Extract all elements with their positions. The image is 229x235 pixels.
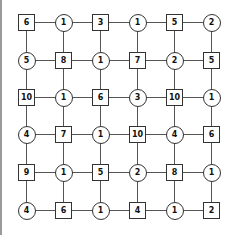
circle-node[interactable]: 3 — [129, 89, 147, 107]
square-node[interactable]: 8 — [166, 164, 183, 181]
grid-col-line — [63, 22, 64, 210]
grid-row-line — [26, 172, 211, 173]
square-node[interactable]: 10 — [166, 89, 183, 106]
square-node[interactable]: 9 — [18, 164, 35, 181]
circle-node[interactable]: 1 — [55, 89, 73, 107]
square-node[interactable]: 6 — [203, 126, 220, 143]
square-node[interactable]: 6 — [92, 89, 109, 106]
circle-node[interactable]: 1 — [166, 202, 184, 220]
grid-col-line — [26, 22, 27, 210]
square-node[interactable]: 10 — [18, 89, 35, 106]
square-node[interactable]: 4 — [129, 202, 146, 219]
grid-row-line — [26, 22, 211, 23]
square-node[interactable]: 10 — [129, 126, 146, 143]
circle-node[interactable]: 4 — [18, 126, 36, 144]
square-node[interactable]: 5 — [203, 52, 220, 69]
grid-col-line — [174, 22, 175, 210]
circle-node[interactable]: 2 — [166, 52, 184, 70]
circle-node[interactable]: 4 — [18, 202, 36, 220]
square-node[interactable]: 3 — [92, 14, 109, 31]
circle-node[interactable]: 1 — [92, 52, 110, 70]
circle-node[interactable]: 5 — [18, 52, 36, 70]
puzzle-board: 613152581725101631014711046915281461412 — [0, 0, 229, 235]
grid-row-line — [26, 97, 211, 98]
circle-node[interactable]: 2 — [129, 164, 147, 182]
square-node[interactable]: 6 — [55, 202, 72, 219]
circle-node[interactable]: 2 — [203, 14, 221, 32]
square-node[interactable]: 5 — [92, 164, 109, 181]
grid-col-line — [100, 22, 101, 210]
square-node[interactable]: 2 — [203, 202, 220, 219]
circle-node[interactable]: 1 — [55, 14, 73, 32]
square-node[interactable]: 7 — [129, 52, 146, 69]
square-node[interactable]: 7 — [55, 126, 72, 143]
square-node[interactable]: 8 — [55, 52, 72, 69]
circle-node[interactable]: 1 — [129, 14, 147, 32]
circle-node[interactable]: 1 — [92, 202, 110, 220]
grid-col-line — [211, 22, 212, 210]
circle-node[interactable]: 4 — [166, 126, 184, 144]
circle-node[interactable]: 1 — [203, 89, 221, 107]
square-node[interactable]: 6 — [18, 14, 35, 31]
circle-node[interactable]: 1 — [55, 164, 73, 182]
circle-node[interactable]: 1 — [92, 126, 110, 144]
circle-node[interactable]: 1 — [203, 164, 221, 182]
square-node[interactable]: 5 — [166, 14, 183, 31]
grid-col-line — [137, 22, 138, 210]
